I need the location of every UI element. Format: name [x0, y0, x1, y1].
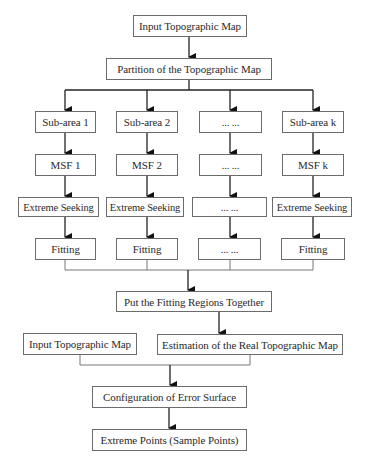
msf-1-box: MSF 1: [35, 154, 96, 176]
msf-2-box: MSF 2: [116, 154, 178, 176]
input-topographic-map-box: Input Topographic Map: [133, 15, 247, 37]
extreme-seeking-2-box: Extreme Seeking: [106, 197, 184, 217]
subarea-k-box: Sub-area k: [282, 111, 344, 133]
fitting-ellipsis-box: ... ...: [198, 238, 261, 260]
extreme-seeking-k-box: Extreme Seeking: [272, 197, 352, 217]
extreme-seeking-ellipsis-box: ... ...: [192, 197, 267, 217]
estimation-real-map-box: Estimation of the Real Topographic Map: [157, 334, 343, 355]
partition-box: Partition of the Topographic Map: [106, 58, 272, 80]
flowchart: Input Topographic Map Partition of the T…: [0, 0, 367, 465]
fitting-2-box: Fitting: [116, 238, 178, 260]
put-fitting-regions-together-box: Put the Fitting Regions Together: [116, 291, 272, 312]
msf-ellipsis-box: ... ...: [199, 154, 262, 176]
input-topographic-map-2-box: Input Topographic Map: [23, 333, 137, 355]
fitting-1-box: Fitting: [35, 238, 96, 260]
msf-k-box: MSF k: [282, 154, 344, 176]
configuration-error-surface-box: Configuration of Error Surface: [92, 386, 247, 408]
fitting-k-box: Fitting: [281, 238, 345, 260]
subarea-1-box: Sub-area 1: [35, 111, 96, 133]
subarea-2-box: Sub-area 2: [116, 111, 178, 133]
extreme-seeking-1-box: Extreme Seeking: [18, 197, 99, 217]
extreme-points-box: Extreme Points (Sample Points): [92, 429, 247, 451]
subarea-ellipsis-box: ... ...: [199, 111, 262, 133]
